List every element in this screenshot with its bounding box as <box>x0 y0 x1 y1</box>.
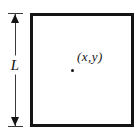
dimension-tick-bottom <box>8 126 23 127</box>
side-length-label: L <box>9 56 21 75</box>
interior-point-dot <box>71 69 74 72</box>
square-outline <box>30 13 134 127</box>
square-with-point-diagram: L (x,y) <box>0 0 139 138</box>
point-coordinates-label: (x,y) <box>77 50 103 64</box>
arrow-up-icon <box>11 14 19 23</box>
arrow-down-icon <box>11 117 19 126</box>
